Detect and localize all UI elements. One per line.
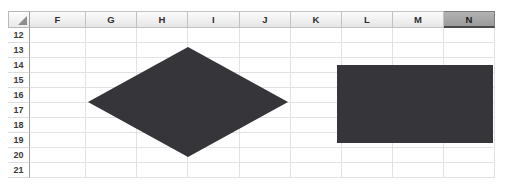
grid-cell-I21[interactable] [188,163,240,178]
grid-cell-F20[interactable] [30,148,86,163]
grid-cell-K15[interactable] [291,73,342,88]
row-header-19[interactable]: 19 [8,133,30,148]
row-header-13[interactable]: 13 [8,43,30,58]
grid-cell-N20[interactable] [444,148,495,163]
grid-row [30,28,495,43]
grid-cell-K19[interactable] [291,133,342,148]
row-header-12[interactable]: 12 [8,28,30,43]
column-header-m[interactable]: M [393,11,444,28]
column-header-k[interactable]: K [291,11,342,28]
grid-cell-M21[interactable] [393,163,444,178]
grid-cell-M12[interactable] [393,28,444,43]
row-header-18[interactable]: 18 [8,118,30,133]
diamond-shape[interactable] [88,47,288,157]
grid-cell-L21[interactable] [342,163,393,178]
column-header-row: FGHIJKLMN [8,11,495,28]
row-header-15[interactable]: 15 [8,73,30,88]
grid-cell-J21[interactable] [240,163,291,178]
grid-cell-L12[interactable] [342,28,393,43]
column-header-l[interactable]: L [342,11,393,28]
row-header-14[interactable]: 14 [8,58,30,73]
select-all-corner-button[interactable] [8,11,30,28]
grid-cell-G12[interactable] [86,28,137,43]
column-header-i[interactable]: I [188,11,240,28]
grid-cell-K20[interactable] [291,148,342,163]
grid-cell-F14[interactable] [30,58,86,73]
column-header-h[interactable]: H [137,11,188,28]
grid-cell-N12[interactable] [444,28,495,43]
grid-cell-K18[interactable] [291,118,342,133]
grid-cell-M13[interactable] [393,43,444,58]
grid-cell-L13[interactable] [342,43,393,58]
row-header-column: 12131415161718192021 [8,28,30,178]
column-header-n[interactable]: N [444,11,495,28]
row-header-16[interactable]: 16 [8,88,30,103]
grid-cell-F15[interactable] [30,73,86,88]
grid-cell-M20[interactable] [393,148,444,163]
column-header-g[interactable]: G [86,11,137,28]
grid-cell-F16[interactable] [30,88,86,103]
grid-row [30,163,495,178]
grid-cell-K16[interactable] [291,88,342,103]
grid-cell-K17[interactable] [291,103,342,118]
row-header-20[interactable]: 20 [8,148,30,163]
grid-cell-J12[interactable] [240,28,291,43]
grid-cell-F12[interactable] [30,28,86,43]
grid-cell-F13[interactable] [30,43,86,58]
spreadsheet-grid: FGHIJKLMN 12131415161718192021 [0,0,513,186]
grid-cell-L20[interactable] [342,148,393,163]
grid-cell-H21[interactable] [137,163,188,178]
grid-cell-K14[interactable] [291,58,342,73]
row-header-21[interactable]: 21 [8,163,30,178]
select-all-triangle-icon [18,16,27,25]
grid-cell-K21[interactable] [291,163,342,178]
grid-cell-F17[interactable] [30,103,86,118]
row-header-17[interactable]: 17 [8,103,30,118]
grid-cell-H12[interactable] [137,28,188,43]
grid-cell-I12[interactable] [188,28,240,43]
rectangle-shape[interactable] [337,65,493,143]
grid-cell-K12[interactable] [291,28,342,43]
column-header-f[interactable]: F [30,11,86,28]
grid-cell-K13[interactable] [291,43,342,58]
column-header-j[interactable]: J [240,11,291,28]
grid-cell-F21[interactable] [30,163,86,178]
grid-cell-N13[interactable] [444,43,495,58]
grid-cell-F19[interactable] [30,133,86,148]
grid-cell-G21[interactable] [86,163,137,178]
grid-cell-F18[interactable] [30,118,86,133]
grid-cell-N21[interactable] [444,163,495,178]
